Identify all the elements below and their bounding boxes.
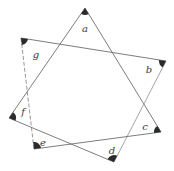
vertex-label-c: c (142, 121, 148, 132)
vertex-label-f: f (20, 106, 27, 117)
edge-a-f (9, 8, 85, 118)
angle-marker-d (108, 155, 118, 162)
vertex-label-b: b (146, 64, 152, 75)
edge-g-b (21, 38, 166, 61)
vertex-label-e: e (40, 137, 46, 148)
vertex-label-g: g (33, 49, 39, 60)
edge-b-d (114, 61, 166, 162)
star-diagram: a b c d e f g (0, 0, 174, 171)
vertex-label-a: a (82, 23, 88, 34)
angle-marker-g (21, 38, 28, 45)
vertex-label-d: d (109, 145, 115, 156)
edge-e-c (34, 132, 161, 149)
